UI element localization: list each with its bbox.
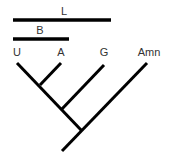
taxon-a-label: A	[57, 47, 64, 58]
taxon-amn-label: Amn	[138, 47, 161, 58]
taxon-u-label: U	[13, 47, 21, 58]
bar-l-label: L	[61, 6, 67, 17]
branch-g	[61, 65, 104, 110]
cladogram-svg	[0, 0, 171, 158]
branch-amn	[62, 63, 147, 151]
taxon-g-label: G	[100, 47, 109, 58]
bar-b-label: B	[36, 25, 43, 36]
branch-a	[40, 63, 61, 85]
